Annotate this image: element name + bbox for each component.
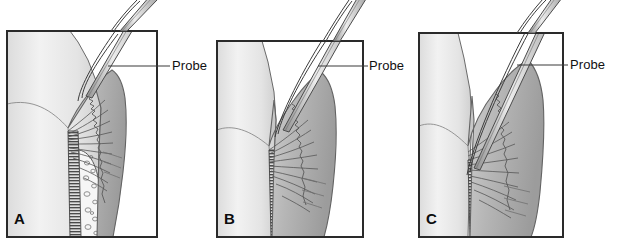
panel-b-letter: B xyxy=(224,211,235,226)
probe-handle-extension xyxy=(517,0,562,33)
panel-a: A Probe xyxy=(0,0,206,244)
panel-c-letter: C xyxy=(426,211,437,226)
panel-a-probe-label: Probe xyxy=(172,59,207,72)
periodontal-probing-figure: A Probe xyxy=(0,0,618,244)
panel-b-probe-label: Probe xyxy=(369,59,404,72)
probe-handle-extension xyxy=(111,0,157,31)
panel-b-illustration xyxy=(206,0,412,244)
tooth-structure xyxy=(419,33,472,237)
panel-a-illustration xyxy=(0,0,206,244)
probe-handle-extension xyxy=(323,0,366,41)
panel-c-probe-label: Probe xyxy=(570,58,605,71)
panel-a-letter: A xyxy=(14,211,25,226)
tooth-structure xyxy=(217,41,276,237)
panel-b: B Probe xyxy=(206,0,412,244)
panel-c-illustration xyxy=(412,0,618,244)
panel-c: C Probe xyxy=(412,0,618,244)
